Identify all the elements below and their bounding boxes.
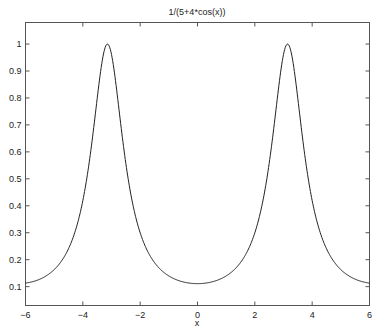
y-tick-label: 0.2	[9, 255, 22, 265]
y-tick-label: 0.8	[9, 93, 22, 103]
y-tick-label: 0.1	[9, 282, 22, 292]
y-tick-label: 0.3	[9, 228, 22, 238]
y-tick-label: 0.9	[9, 66, 22, 76]
plot-axes: −6−4−202460.10.20.30.40.50.60.70.80.91	[9, 23, 372, 320]
y-tick-label: 0.6	[9, 147, 22, 157]
x-tick-label: −4	[78, 310, 88, 320]
data-series-line	[26, 44, 370, 284]
x-tick-label: 2	[252, 310, 257, 320]
x-tick-label: 6	[367, 310, 372, 320]
x-tick-label: −2	[135, 310, 145, 320]
plot-frame	[26, 23, 370, 306]
x-tick-label: −6	[20, 310, 30, 320]
y-tick-label: 0.5	[9, 174, 22, 184]
chart-title: 1/(5+4*cos(x))	[169, 7, 226, 17]
line-chart: 1/(5+4*cos(x)) −6−4−202460.10.20.30.40.5…	[0, 0, 385, 333]
x-tick-label: 4	[310, 310, 315, 320]
x-axis-label: x	[195, 318, 200, 328]
y-tick-label: 1	[16, 39, 21, 49]
y-tick-label: 0.7	[9, 120, 22, 130]
y-tick-label: 0.4	[9, 201, 22, 211]
